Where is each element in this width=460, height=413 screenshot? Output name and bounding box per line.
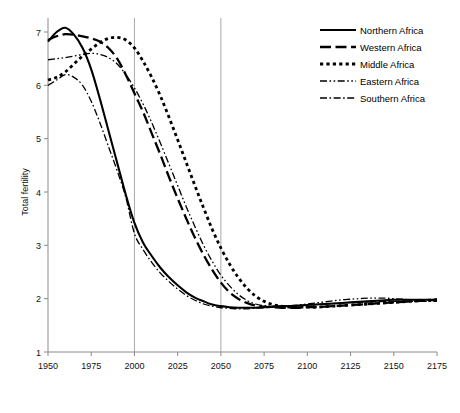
x-tick-label-2100: 2100 xyxy=(297,361,317,371)
x-tick-label-2150: 2150 xyxy=(384,361,404,371)
x-tick-label-2050: 2050 xyxy=(211,361,231,371)
legend-label-northern-africa: Northern Africa xyxy=(360,25,424,36)
y-axis-title: Total fertility xyxy=(20,168,30,216)
y-tick-label-7: 7 xyxy=(36,28,41,38)
chart-legend: Northern AfricaWestern AfricaMiddle Afri… xyxy=(320,25,426,104)
series-line-eastern-africa xyxy=(48,53,437,306)
y-axis-title-text: Total fertility xyxy=(20,168,30,216)
x-tick-label-1975: 1975 xyxy=(81,361,101,371)
legend-label-southern-africa: Southern Africa xyxy=(360,93,426,104)
x-tick-label-2000: 2000 xyxy=(124,361,144,371)
y-tick-label-2: 2 xyxy=(36,294,41,304)
y-axis-tick-labels: 1234567 xyxy=(36,28,41,358)
x-tick-label-2075: 2075 xyxy=(254,361,274,371)
x-tick-label-1950: 1950 xyxy=(38,361,58,371)
chart-canvas: 1950197520002025205020752100212521502175… xyxy=(0,0,460,413)
fertility-chart: 1950197520002025205020752100212521502175… xyxy=(0,0,460,413)
x-tick-label-2025: 2025 xyxy=(168,361,188,371)
legend-label-eastern-africa: Eastern Africa xyxy=(360,76,420,87)
x-tick-label-2125: 2125 xyxy=(341,361,361,371)
series-line-northern-africa xyxy=(48,28,437,308)
y-tick-label-6: 6 xyxy=(36,81,41,91)
y-tick-label-4: 4 xyxy=(36,188,41,198)
x-tick-label-2175: 2175 xyxy=(427,361,447,371)
y-tick-label-1: 1 xyxy=(36,348,41,358)
y-tick-label-5: 5 xyxy=(36,134,41,144)
series-line-southern-africa xyxy=(48,75,437,309)
legend-label-middle-africa: Middle Africa xyxy=(360,59,415,70)
y-tick-label-3: 3 xyxy=(36,241,41,251)
x-axis-tick-labels: 1950197520002025205020752100212521502175 xyxy=(38,361,447,371)
data-series xyxy=(48,28,437,309)
legend-label-western-africa: Western Africa xyxy=(360,42,422,53)
